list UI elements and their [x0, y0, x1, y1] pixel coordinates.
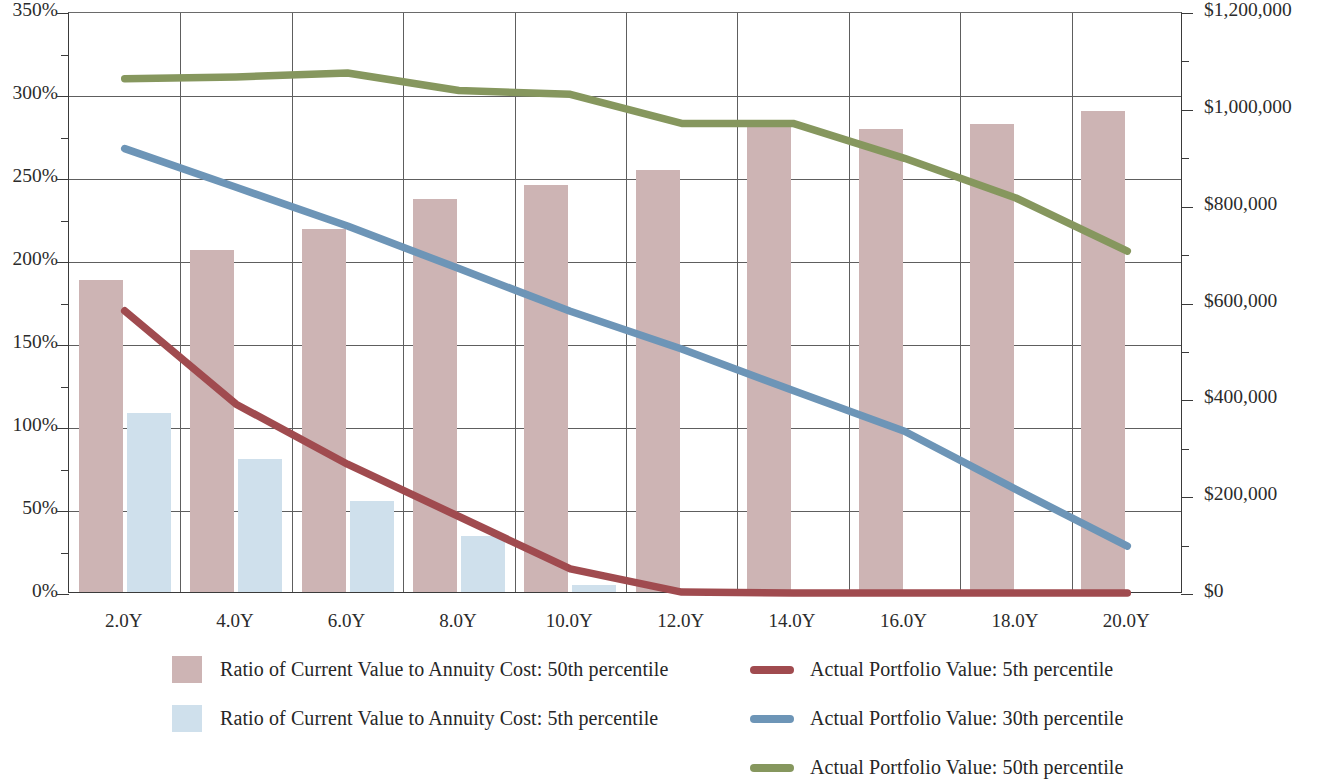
left-axis-minor-tick — [61, 221, 69, 222]
left-axis-major-tick — [57, 96, 69, 97]
left-axis-minor-tick — [61, 387, 69, 388]
left-axis-major-tick — [57, 511, 69, 512]
right-axis-tick-label: $0 — [1204, 580, 1224, 602]
legend-label: Ratio of Current Value to Annuity Cost: … — [220, 707, 658, 730]
right-axis-major-tick — [1181, 497, 1193, 498]
chart-legend: Ratio of Current Value to Annuity Cost: … — [0, 645, 1326, 779]
x-axis-tick-label: 14.0Y — [736, 610, 847, 632]
gridline-vertical — [960, 13, 961, 592]
right-axis-major-tick — [1181, 110, 1193, 111]
gridline-horizontal — [69, 179, 1181, 180]
left-axis-tick-label: 100% — [0, 414, 58, 436]
x-axis-tick-label: 12.0Y — [625, 610, 736, 632]
gridline-horizontal — [69, 511, 1181, 512]
bar-ratio-5th — [572, 585, 616, 592]
bar-ratio-50th — [970, 124, 1014, 592]
right-axis-major-tick — [1181, 304, 1193, 305]
right-axis-minor-tick — [1181, 158, 1189, 159]
legend-entry[interactable]: Ratio of Current Value to Annuity Cost: … — [172, 694, 732, 743]
right-axis-tick-label: $600,000 — [1204, 290, 1277, 312]
legend-label: Actual Portfolio Value: 50th percentile — [810, 756, 1123, 779]
gridline-vertical — [849, 13, 850, 592]
left-axis-tick-label: 50% — [0, 497, 58, 519]
bar-ratio-50th — [524, 185, 568, 592]
bar-ratio-5th — [127, 413, 171, 592]
left-axis-major-tick — [57, 179, 69, 180]
right-axis-minor-tick — [1181, 352, 1189, 353]
gridline-horizontal — [69, 262, 1181, 263]
left-axis-tick-label: 200% — [0, 248, 58, 270]
right-axis-major-tick — [1181, 400, 1193, 401]
legend-entry[interactable]: Actual Portfolio Value: 30th percentile — [750, 694, 1320, 743]
x-axis-tick-label: 2.0Y — [68, 610, 179, 632]
right-axis-tick-label: $400,000 — [1204, 386, 1277, 408]
right-axis-minor-tick — [1181, 61, 1189, 62]
gridline-horizontal — [69, 96, 1181, 97]
bar-ratio-50th — [413, 199, 457, 592]
left-axis-tick-label: 300% — [0, 82, 58, 104]
right-axis-minor-tick — [1181, 255, 1189, 256]
bar-ratio-5th — [461, 536, 505, 592]
gridline-vertical — [626, 13, 627, 592]
gridline-vertical — [515, 13, 516, 592]
left-axis-tick-label: 350% — [0, 0, 58, 21]
bar-ratio-50th — [79, 280, 123, 592]
x-axis-tick-label: 10.0Y — [514, 610, 625, 632]
right-axis-major-tick — [1181, 207, 1193, 208]
x-axis-tick-label: 16.0Y — [848, 610, 959, 632]
left-axis-major-tick — [57, 13, 69, 14]
left-axis-minor-tick — [61, 304, 69, 305]
bar-ratio-50th — [190, 250, 234, 592]
right-axis-minor-tick — [1181, 546, 1189, 547]
legend-column-bars: Ratio of Current Value to Annuity Cost: … — [172, 645, 732, 743]
right-axis-tick-label: $1,200,000 — [1204, 0, 1292, 21]
x-axis-tick-label: 8.0Y — [402, 610, 513, 632]
bar-ratio-5th — [350, 501, 394, 592]
right-axis-tick-label: $200,000 — [1204, 483, 1277, 505]
left-axis-minor-tick — [61, 470, 69, 471]
x-axis-tick-label: 18.0Y — [959, 610, 1070, 632]
bar-ratio-50th — [747, 127, 791, 592]
legend-entry[interactable]: Actual Portfolio Value: 5th percentile — [750, 645, 1320, 694]
left-axis-tick-label: 250% — [0, 165, 58, 187]
right-axis-major-tick — [1181, 13, 1193, 14]
left-axis-minor-tick — [61, 553, 69, 554]
legend-swatch-box-icon — [172, 705, 202, 732]
gridline-vertical — [403, 13, 404, 592]
left-axis-major-tick — [57, 345, 69, 346]
bar-ratio-5th — [238, 459, 282, 592]
left-axis-tick-label: 0% — [0, 580, 58, 602]
x-axis-tick-label: 4.0Y — [179, 610, 290, 632]
gridline-horizontal — [69, 428, 1181, 429]
left-axis-major-tick — [57, 594, 69, 595]
legend-label: Ratio of Current Value to Annuity Cost: … — [220, 658, 668, 681]
legend-entry[interactable]: Actual Portfolio Value: 50th percentile — [750, 743, 1320, 779]
gridline-vertical — [180, 13, 181, 592]
legend-label: Actual Portfolio Value: 5th percentile — [810, 658, 1113, 681]
left-axis-minor-tick — [61, 138, 69, 139]
legend-entry[interactable]: Ratio of Current Value to Annuity Cost: … — [172, 645, 732, 694]
plot-area — [68, 12, 1182, 593]
right-axis-tick-label: $800,000 — [1204, 193, 1277, 215]
bar-ratio-50th — [859, 129, 903, 592]
gridline-vertical — [737, 13, 738, 592]
bar-ratio-50th — [1081, 111, 1125, 592]
chart-figure: 0%50%100%150%200%250%300%350% $0$200,000… — [0, 0, 1326, 779]
gridline-vertical — [292, 13, 293, 592]
gridline-vertical — [1072, 13, 1073, 592]
left-axis-major-tick — [57, 262, 69, 263]
bar-ratio-50th — [302, 229, 346, 593]
x-axis-tick-label: 6.0Y — [291, 610, 402, 632]
right-axis-major-tick — [1181, 594, 1193, 595]
bar-ratio-50th — [636, 170, 680, 592]
gridline-horizontal — [69, 345, 1181, 346]
left-axis-minor-tick — [61, 55, 69, 56]
legend-column-lines: Actual Portfolio Value: 5th percentileAc… — [750, 645, 1320, 779]
left-axis-tick-label: 150% — [0, 331, 58, 353]
left-axis-major-tick — [57, 428, 69, 429]
right-axis-minor-tick — [1181, 449, 1189, 450]
right-axis-tick-label: $1,000,000 — [1204, 96, 1292, 118]
x-axis-tick-label: 20.0Y — [1071, 610, 1182, 632]
legend-swatch-line-icon — [750, 715, 794, 723]
legend-swatch-line-icon — [750, 764, 794, 772]
